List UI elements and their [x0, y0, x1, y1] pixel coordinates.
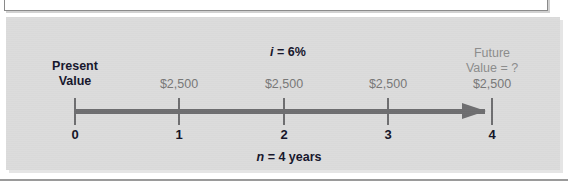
cash-flow-amount-4: $2,500 — [447, 77, 537, 92]
upper-figure-box — [4, 0, 548, 11]
cash-flow-amount-1: $2,500 — [134, 77, 224, 92]
bottom-divider — [0, 179, 568, 181]
period-label-3: 3 — [358, 127, 418, 142]
future-value-label: Future Value = ? — [437, 46, 547, 76]
period-label-1: 1 — [149, 127, 209, 142]
future-value-line-1: Future — [437, 46, 547, 61]
period-label-2: 2 — [254, 127, 314, 142]
cash-flow-amount-3: $2,500 — [343, 77, 433, 92]
timeline-tick-4 — [491, 98, 493, 125]
future-value-line-2: Value = ? — [437, 61, 547, 76]
interest-rate-value: = 6% — [277, 45, 306, 59]
timeline-arrowhead-icon — [462, 103, 486, 119]
timeline-tick-3 — [387, 98, 389, 125]
present-value-label: Present Value — [30, 59, 120, 89]
interest-rate-label: i = 6% — [228, 45, 348, 60]
timeline-figure-panel: i = 6% Present Value Future Value = ? $2… — [6, 17, 560, 170]
timeline-tick-2 — [283, 98, 285, 125]
cash-flow-amount-2: $2,500 — [239, 77, 329, 92]
timeline-axis — [75, 109, 485, 114]
periods-label: n = 4 years — [224, 150, 354, 165]
periods-value: = 4 years — [268, 150, 322, 164]
present-value-line-2: Value — [30, 74, 120, 89]
interest-rate-symbol: i — [270, 45, 273, 59]
timeline-tick-1 — [178, 98, 180, 125]
period-label-0: 0 — [45, 127, 105, 142]
periods-symbol: n — [257, 150, 265, 164]
period-label-4: 4 — [462, 127, 522, 142]
timeline-tick-0 — [74, 98, 76, 125]
present-value-line-1: Present — [30, 59, 120, 74]
